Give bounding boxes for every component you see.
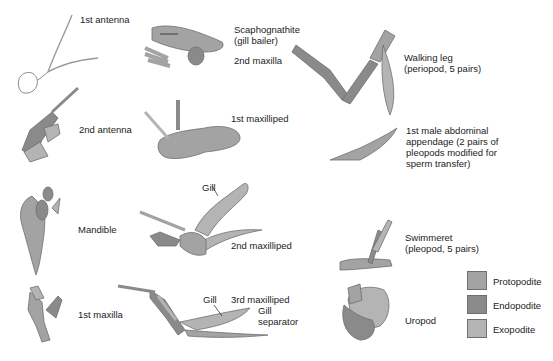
label-third-maxilliped: 3rd maxilliped — [231, 294, 290, 305]
label-first-maxilliped: 1st maxilliped — [231, 113, 289, 124]
callout-gill-second-maxilliped: Gill — [202, 182, 216, 193]
label-first-antenna: 1st antenna — [80, 14, 130, 25]
second-antenna-illustration — [22, 88, 78, 162]
first-maxilla-illustration — [28, 286, 62, 342]
first-antenna-illustration — [18, 15, 98, 93]
swimmeret-illustration — [340, 220, 392, 270]
second-maxilla-illustration — [145, 26, 223, 66]
first-male-abdominal-appendage-illustration — [330, 128, 397, 160]
label-second-maxilla: 2nd maxilla — [234, 55, 282, 66]
label-uropod: Uropod — [405, 315, 436, 326]
legend-swatch-exopodite — [467, 319, 487, 338]
label-mandible: Mandible — [78, 224, 117, 235]
appendage-diagram: 1st antenna Scaphognathite (gill bailer)… — [0, 0, 553, 361]
callout-gill-separator: Gill separator — [258, 305, 298, 327]
label-first-maxilla: 1st maxilla — [78, 309, 123, 320]
label-second-maxilliped: 2nd maxilliped — [231, 240, 292, 251]
mandible-illustration — [20, 187, 60, 275]
walking-leg-illustration — [292, 30, 395, 115]
callout-gill-third-maxilliped: Gill — [203, 294, 217, 305]
legend-label-exopodite: Exopodite — [493, 324, 535, 335]
uropod-illustration — [343, 284, 389, 340]
callout-scaphognathite: Scaphognathite (gill bailer) — [234, 24, 300, 46]
legend-label-endopodite: Endopodite — [493, 300, 541, 311]
legend-swatch-protopodite — [467, 271, 487, 290]
legend-swatch-endopodite — [467, 295, 487, 314]
label-walking-leg: Walking leg (periopod, 5 pairs) — [404, 52, 481, 74]
label-first-male-abdominal-appendage: 1st male abdominal appendage (2 pairs of… — [406, 125, 498, 169]
label-swimmeret: Swimmeret (pleopod, 5 pairs) — [405, 232, 479, 254]
first-maxilliped-illustration — [145, 100, 240, 159]
label-second-antenna: 2nd antenna — [79, 124, 132, 135]
legend-label-protopodite: Protopodite — [493, 276, 542, 287]
